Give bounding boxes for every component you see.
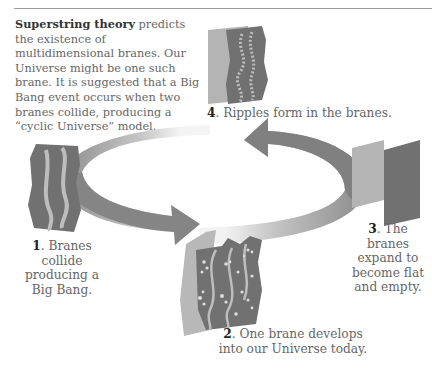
- cycle-arrow-left: [62, 125, 210, 245]
- step2-text: . One brane develops into our Universe t…: [219, 327, 367, 356]
- step2-brane-illustration: [180, 230, 262, 336]
- step2-caption: 2. One brane develops into our Universe …: [218, 327, 368, 356]
- step3-text: . The branes expand to become flat and e…: [352, 222, 424, 294]
- step2-number: 2: [223, 327, 231, 341]
- step4-text: . Ripples form in the branes.: [215, 106, 391, 120]
- step1-caption: 1. Branes collide producing a Big Bang.: [16, 239, 108, 297]
- step3-branes-illustration: [352, 140, 420, 226]
- step1-branes-illustration: [28, 144, 81, 232]
- step3-number: 3: [368, 222, 376, 236]
- step3-caption: 3. The branes expand to become flat and …: [346, 222, 430, 295]
- brane-cycle-illustration: [0, 0, 432, 371]
- step4-caption: 4. Ripples form in the branes.: [207, 106, 407, 121]
- cycle-arrow-right: [200, 118, 367, 244]
- step1-number: 1: [32, 239, 40, 253]
- step4-branes-illustration: [208, 26, 268, 104]
